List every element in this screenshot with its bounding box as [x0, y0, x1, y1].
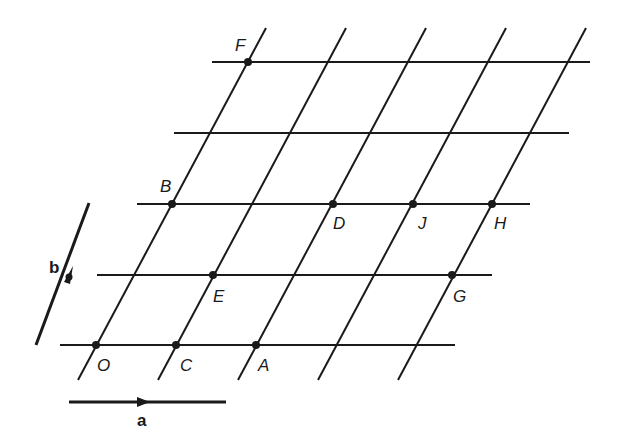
point-H	[488, 200, 496, 208]
point-O	[92, 341, 100, 349]
vector-b-arrow-dot	[66, 274, 73, 281]
point-E	[209, 271, 217, 279]
label-O: O	[97, 356, 110, 375]
label-F: F	[235, 36, 247, 55]
basis-vector-b: b	[36, 203, 89, 345]
label-J: J	[417, 214, 427, 233]
point-A	[252, 341, 260, 349]
label-H: H	[494, 214, 507, 233]
label-C: C	[180, 356, 193, 375]
point-G	[448, 271, 456, 279]
label-E: E	[213, 287, 225, 306]
label-B: B	[160, 177, 171, 196]
lattice-diagram: O C A E G B D J H F b a	[0, 0, 619, 443]
label-a: a	[137, 411, 147, 430]
basis-vector-a: a	[69, 397, 226, 430]
label-A: A	[257, 356, 269, 375]
label-b: b	[49, 258, 59, 277]
point-J	[409, 200, 417, 208]
vector-a-arrowhead-icon	[137, 397, 150, 407]
label-D: D	[333, 214, 345, 233]
label-G: G	[453, 287, 466, 306]
point-C	[172, 341, 180, 349]
vector-b-line	[36, 203, 89, 345]
point-D	[329, 200, 337, 208]
point-F	[244, 58, 252, 66]
point-B	[168, 200, 176, 208]
lattice-grid	[60, 28, 590, 380]
